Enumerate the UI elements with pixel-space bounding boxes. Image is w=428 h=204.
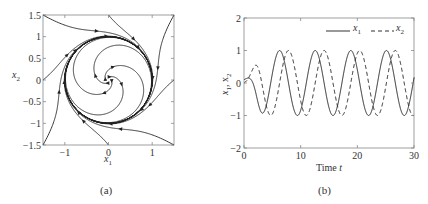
x-tick-label: 10 — [296, 150, 306, 161]
y-tick-label: 0 — [36, 75, 41, 86]
x-tick-label: 20 — [352, 150, 362, 161]
legend-x1-label: x1 — [352, 22, 361, 36]
y-tick-label: −2 — [230, 143, 241, 154]
y-tick-label: 2 — [236, 13, 241, 24]
plot-b-frame — [244, 18, 414, 148]
x2-axis-label: x2 — [11, 69, 20, 83]
arrow-icon — [119, 82, 122, 86]
arrow-icon — [110, 79, 114, 83]
y-tick-label: 1 — [236, 45, 241, 56]
arrow-icon — [104, 77, 108, 81]
y-tick-label: 0 — [236, 78, 241, 89]
arrow-icon — [108, 75, 112, 79]
trajectory — [66, 37, 153, 120]
arrow-icon — [105, 81, 109, 85]
y-tick-label: 1.5 — [29, 10, 42, 21]
arrow-icon — [111, 66, 115, 69]
svg-text:x1, x2: x1, x2 — [219, 73, 233, 96]
time-series-curves — [244, 51, 414, 116]
x-tick-label: 30 — [409, 150, 419, 161]
trajectory — [65, 40, 152, 123]
y-tick-label: −0.5 — [23, 96, 41, 107]
x2-series-line — [244, 51, 414, 116]
phase-portrait-panel: −1011.510.50−0.5−1−1.5 x1 x2 (a) — [11, 10, 174, 198]
arrow-icon — [102, 91, 106, 94]
x1-series-line — [244, 51, 414, 116]
figure: −1011.510.50−0.5−1−1.5 x1 x2 (a) 0102030… — [0, 0, 428, 204]
plot-a-frame — [43, 15, 174, 145]
legend-x2-label: x2 — [395, 22, 404, 36]
y-tick-label: −1.5 — [23, 140, 41, 151]
caption-a: (a) — [100, 184, 113, 197]
y-tick-label: −1 — [230, 110, 241, 121]
arrow-icon — [94, 74, 97, 78]
y-tick-label: 1 — [36, 31, 41, 42]
time-series-panel: 0102030210−1−2 x1 x2 Time t x1, x2 (b) — [219, 13, 419, 198]
x1-axis-label: x1 — [103, 153, 112, 167]
x-tick-label: 0 — [242, 150, 247, 161]
caption-b: (b) — [318, 184, 331, 197]
y-axis-label-b: x1, x2 — [219, 73, 233, 96]
x-tick-label: −1 — [60, 147, 71, 158]
time-axis-label: Time t — [316, 162, 342, 173]
trajectories — [43, 15, 174, 145]
x-tick-label: 1 — [150, 147, 155, 158]
y-tick-label: 0.5 — [29, 53, 42, 64]
y-tick-label: −1 — [30, 118, 41, 129]
legend: x1 x2 — [326, 22, 404, 36]
